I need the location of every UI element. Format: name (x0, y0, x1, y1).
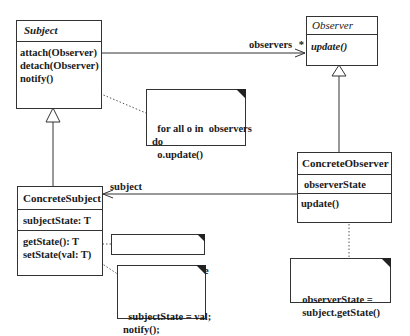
observers-label: observers (249, 39, 292, 50)
concrete-observer-operations: update() (298, 193, 391, 213)
observers-multiplicity: * (299, 39, 304, 50)
observer-operations: update() (307, 34, 377, 58)
operation-update: update() (301, 197, 388, 210)
set-state-note[interactable]: subjectState = val; notify(); (117, 265, 206, 319)
operation-update-abstract: update() (311, 40, 373, 53)
concrete-observer-class[interactable]: ConcreteObserver observerState update() (297, 152, 392, 223)
operation-attach: attach(Observer) (20, 46, 98, 59)
subject-class[interactable]: Subject attach(Observer) detach(Observer… (16, 20, 102, 109)
operation-detach: detach(Observer) (20, 59, 98, 72)
observer-class-name: Observer (307, 17, 377, 34)
update-note-text: observerState = subject.getState() (297, 294, 380, 318)
note-fold-icon (236, 89, 246, 99)
get-state-note[interactable]: return subjectState (111, 234, 205, 255)
note-fold-icon (197, 234, 205, 242)
observers-role-label: observers * (249, 39, 304, 50)
attribute-subject-state: subjectState: T (23, 214, 97, 227)
observer-generalization-triangle-icon (332, 65, 346, 76)
notify-note[interactable]: for all o in observers do o.update() (146, 89, 246, 146)
subject-operations: attach(Observer) detach(Observer) notify… (17, 41, 101, 89)
operation-get-state: getState(): T (23, 235, 97, 248)
note-fold-icon (381, 258, 391, 268)
concrete-subject-operations: getState(): T setState(val: T) (18, 230, 102, 265)
concrete-observer-attributes: observerState (298, 174, 391, 193)
operation-set-state: setState(val: T) (23, 248, 97, 261)
subject-role-label: subject (110, 181, 142, 192)
update-note[interactable]: observerState = subject.getState() (290, 258, 391, 303)
subject-class-name: Subject (17, 21, 101, 41)
concrete-observer-class-name: ConcreteObserver (298, 153, 391, 174)
concrete-subject-attributes: subjectState: T (18, 209, 102, 230)
subject-generalization-triangle-icon (46, 108, 60, 122)
concrete-subject-class-name: ConcreteSubject (18, 187, 102, 209)
concrete-subject-class[interactable]: ConcreteSubject subjectState: T getState… (17, 186, 103, 276)
note-fold-icon (196, 265, 206, 275)
operation-notify: notify() (20, 72, 98, 85)
attribute-observer-state: observerState (304, 178, 385, 191)
observer-class[interactable]: Observer update() (306, 16, 378, 66)
